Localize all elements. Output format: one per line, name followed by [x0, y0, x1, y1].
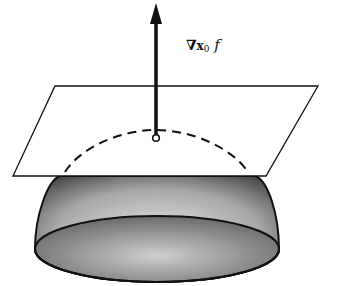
gradient-arrow-head — [150, 3, 162, 24]
label-subscript: x — [197, 39, 204, 53]
hemisphere — [35, 176, 279, 282]
point-x0 — [153, 135, 160, 142]
gradient-label: ∇x0 f — [186, 36, 220, 54]
gradient-diagram — [0, 0, 359, 286]
label-function: f — [214, 36, 220, 54]
label-subscript-index: 0 — [204, 44, 210, 54]
nabla-symbol: ∇ — [186, 37, 197, 53]
